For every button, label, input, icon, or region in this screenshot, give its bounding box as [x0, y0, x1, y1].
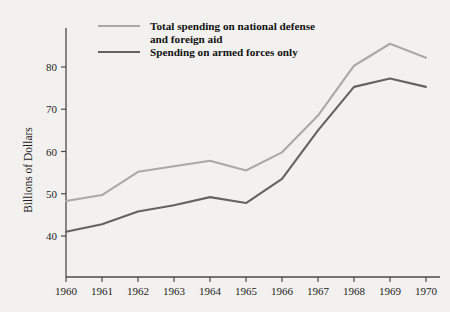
x-tick-label: 1969	[379, 285, 402, 297]
x-tick-label: 1961	[91, 285, 113, 297]
data-series-group	[66, 44, 426, 232]
y-tick-label: 60	[46, 146, 58, 158]
x-tick-label: 1962	[127, 285, 149, 297]
legend-label-armed-forces-line1: Spending on armed forces only	[150, 46, 298, 58]
chart-container: 4050607080 19601961196219631964196519661…	[0, 0, 450, 312]
chart-legend: Total spending on national defense and f…	[98, 20, 315, 58]
series-line-total-spending	[66, 44, 426, 201]
x-axis-ticks: 1960196119621963196419651966196719681969…	[55, 277, 438, 297]
y-axis-title: Billions of Dollars	[22, 127, 34, 213]
y-tick-label: 50	[46, 188, 58, 200]
x-tick-label: 1963	[163, 285, 186, 297]
x-tick-label: 1964	[199, 285, 222, 297]
y-axis-ticks: 4050607080	[46, 61, 66, 242]
x-tick-label: 1966	[271, 285, 294, 297]
y-tick-label: 80	[46, 61, 58, 73]
x-tick-label: 1970	[415, 285, 438, 297]
line-chart: 4050607080 19601961196219631964196519661…	[0, 0, 450, 312]
x-tick-label: 1965	[235, 285, 258, 297]
legend-label-total-spending-line1: Total spending on national defense	[150, 20, 315, 32]
y-tick-label: 70	[46, 103, 58, 115]
x-tick-label: 1960	[55, 285, 78, 297]
x-tick-label: 1967	[307, 285, 330, 297]
y-tick-label: 40	[46, 230, 58, 242]
x-tick-label: 1968	[343, 285, 366, 297]
series-line-armed-forces	[66, 78, 426, 231]
legend-label-total-spending-line2: and foreign aid	[150, 33, 223, 45]
plot-axes	[66, 28, 440, 277]
